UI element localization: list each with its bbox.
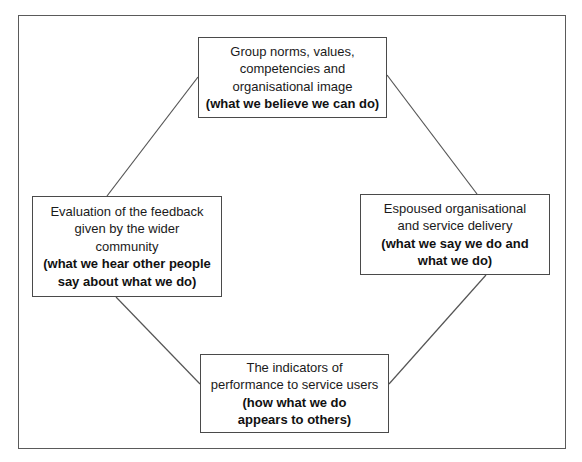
node-subtitle: appears to others) <box>238 411 351 429</box>
node-text: and service delivery <box>398 217 513 235</box>
node-subtitle: (what we hear other people <box>43 255 211 273</box>
connector-right-to-bottom <box>389 275 486 384</box>
node-subtitle: say about what we do) <box>58 273 197 291</box>
node-text: Espoused organisational <box>384 200 526 218</box>
node-subtitle: what we do) <box>418 252 492 270</box>
node-text: The indicators of <box>246 359 342 377</box>
node-performance-indicators: The indicators of performance to service… <box>200 354 389 433</box>
node-espoused-delivery: Espoused organisational and service deli… <box>360 194 550 275</box>
node-text: community <box>96 238 159 256</box>
connector-left-to-top <box>107 77 198 196</box>
node-group-norms: Group norms, values, competencies and or… <box>198 37 387 118</box>
node-subtitle: (how what we do <box>243 394 347 412</box>
node-text: performance to service users <box>211 376 379 394</box>
node-text: competencies and <box>240 60 346 78</box>
node-subtitle: (what we say we do and <box>381 235 528 253</box>
node-text: given by the wider <box>75 220 180 238</box>
node-subtitle: (what we believe we can do) <box>206 95 379 113</box>
connector-bottom-to-left <box>116 297 200 384</box>
node-text: Evaluation of the feedback <box>50 203 203 221</box>
node-text: organisational image <box>233 78 353 96</box>
connector-top-to-right <box>387 75 477 194</box>
node-text: Group norms, values, <box>230 43 354 61</box>
node-community-feedback: Evaluation of the feedback given by the … <box>32 196 222 297</box>
